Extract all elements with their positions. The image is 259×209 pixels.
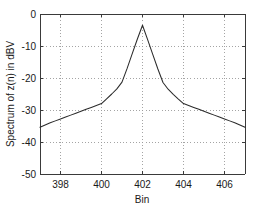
y-tick-label: -30 bbox=[22, 105, 37, 116]
y-tick-label: -40 bbox=[22, 137, 37, 148]
chart-figure: 398400402404406 0-10-20-30-40-50 Bin Spe… bbox=[0, 0, 259, 209]
figure-background bbox=[0, 0, 259, 209]
x-axis-title: Bin bbox=[135, 194, 149, 205]
y-tick-label: -20 bbox=[22, 73, 37, 84]
spectrum-line-chart: 398400402404406 0-10-20-30-40-50 Bin Spe… bbox=[0, 0, 259, 209]
x-tick-label: 398 bbox=[52, 179, 69, 190]
x-tick-label: 404 bbox=[175, 179, 192, 190]
y-tick-label: -10 bbox=[22, 41, 37, 52]
x-tick-label: 400 bbox=[93, 179, 110, 190]
x-tick-label: 402 bbox=[134, 179, 151, 190]
x-tick-label: 406 bbox=[216, 179, 233, 190]
y-tick-label: -50 bbox=[22, 169, 37, 180]
y-tick-label: 0 bbox=[30, 9, 36, 20]
y-axis-title: Spectrum of z(n) in dBV bbox=[5, 41, 16, 147]
